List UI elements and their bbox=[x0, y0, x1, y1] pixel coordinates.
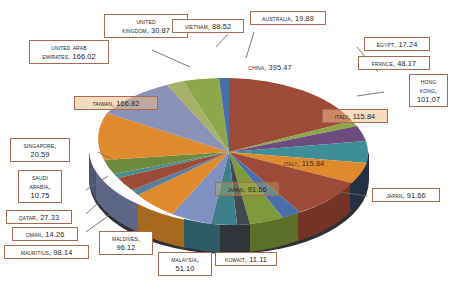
callout-japan-center[interactable]: Japan, 91.66 bbox=[215, 182, 279, 196]
callout-mauritius[interactable]: Mauritius, 98.14 bbox=[4, 245, 89, 259]
callout-china[interactable]: China, 395.47 bbox=[234, 61, 306, 73]
callout-united-arab-emirates[interactable]: United Arab Emirates, 166.02 bbox=[29, 40, 109, 64]
callout-qatar[interactable]: Qatar, 27.33 bbox=[6, 210, 72, 224]
callout-taiwan[interactable]: Taiwan, 166.82 bbox=[74, 96, 158, 110]
callout-oman[interactable]: Oman, 14.26 bbox=[12, 227, 78, 241]
callout-saudi-arabia[interactable]: Saudi Arabia, 10.75 bbox=[18, 170, 62, 203]
callout-maldives[interactable]: Maldives, 96.12 bbox=[99, 231, 153, 255]
callout-italy-right[interactable]: Italy, 115.84 bbox=[322, 109, 388, 123]
pie-chart: United Kingdom, 30.87 Vietnam, 88.52 Aus… bbox=[0, 0, 459, 289]
callout-egypt[interactable]: Egypt, 17.24 bbox=[364, 37, 430, 51]
callout-singapore[interactable]: Singapore, 20.59 bbox=[10, 138, 70, 162]
callout-hong-kong[interactable]: Hong Kong, 101.07 bbox=[409, 74, 448, 107]
callout-malaysia[interactable]: Malaysia, 51.10 bbox=[158, 252, 212, 276]
callout-japan-right[interactable]: Japan, 91.66 bbox=[372, 188, 440, 202]
callout-kuwait[interactable]: Kuwait, 11.11 bbox=[215, 252, 277, 266]
callout-italy-center[interactable]: Italy, 115.84 bbox=[268, 157, 340, 169]
callout-australia[interactable]: Australia, 19.89 bbox=[250, 11, 326, 25]
callout-france[interactable]: France, 48.17 bbox=[358, 56, 430, 70]
callout-vietnam[interactable]: Vietnam, 88.52 bbox=[172, 19, 244, 33]
